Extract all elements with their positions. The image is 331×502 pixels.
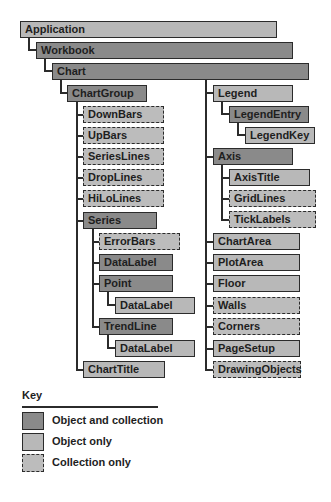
node-chartgroup: ChartGroup [67,85,147,102]
connector-h [92,241,99,243]
node-corners: Corners [213,318,300,335]
connector-chartgroup-trunk [76,101,78,370]
connector-axis-trunk [221,164,223,220]
connector-h [76,135,83,137]
connector-h [92,283,99,285]
connector-h [205,348,213,350]
connector-h [76,114,83,116]
connector-h [76,177,83,179]
node-ticklabels: TickLabels [229,211,316,228]
node-droplines: DropLines [83,169,164,186]
connector-h [221,177,229,179]
key-label-object-and-collection: Object and collection [52,414,163,426]
connector-h [205,262,213,264]
connector-h [221,219,229,221]
node-pagesetup: PageSetup [213,340,300,357]
connector-series-trunk [92,228,94,327]
node-gridlines: GridLines [229,190,316,207]
connector-h [205,305,213,307]
connector-h [76,156,83,158]
node-walls: Walls [213,297,300,314]
node-series-datalabel: DataLabel [99,254,173,271]
node-serieslines: SeriesLines [83,148,164,165]
key-title: Key [22,389,42,401]
connector-h [76,369,83,371]
node-charttitle: ChartTitle [83,361,165,378]
node-workbook: Workbook [36,42,293,59]
connector-workbook-chart-h [44,70,52,72]
connector-h [205,156,213,158]
connector-h [76,198,83,200]
node-downbars: DownBars [83,106,164,123]
key-label-object-only: Object only [52,435,112,447]
connector-h [205,369,213,371]
connector-application-workbook-h [28,49,36,51]
key-divider [22,406,158,408]
connector-h [221,113,229,115]
node-application: Application [20,21,277,38]
connector-h [237,134,245,136]
connector-h [205,326,213,328]
swatch-collection-only [22,454,44,472]
node-trendline-datalabel: DataLabel [115,340,195,357]
connector-h [107,304,115,306]
node-axistitle: AxisTitle [229,169,310,186]
node-chartarea: ChartArea [213,233,300,250]
connector-h [107,347,115,349]
node-floor: Floor [213,275,300,292]
connector-point-datalabel [107,291,109,305]
connector-h [221,198,229,200]
node-errorbars: ErrorBars [99,233,180,250]
connector-h [92,326,99,328]
connector-h [205,92,213,94]
node-hilolines: HiLoLines [83,190,164,207]
node-upbars: UpBars [83,127,164,144]
connector-h [205,283,213,285]
node-drawingobjects: DrawingObjects [213,361,301,378]
node-series: Series [83,212,157,229]
node-trendline: TrendLine [99,318,173,335]
swatch-object-only [22,433,44,451]
key-label-collection-only: Collection only [52,456,131,468]
node-chart: Chart [52,63,309,80]
connector-chart-chartgroup [60,79,62,93]
swatch-object-and-collection [22,412,44,430]
node-axis: Axis [213,148,293,165]
node-legendkey: LegendKey [245,127,315,144]
node-legendentry: LegendEntry [229,106,309,123]
node-point-datalabel: DataLabel [115,297,195,314]
connector-h [205,241,213,243]
node-point: Point [99,275,173,292]
connector-chart-chartgroup-h [60,92,67,94]
connector-h [92,262,99,264]
connector-h [76,220,83,222]
node-legend: Legend [213,85,293,102]
node-plotarea: PlotArea [213,254,300,271]
